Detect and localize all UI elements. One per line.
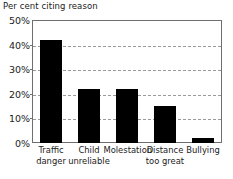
y-axis-tick-labels: 0%10%20%30%40%50% <box>0 20 30 143</box>
x-tick-label-line: unreliable <box>65 156 112 167</box>
gridline-40 <box>33 46 221 47</box>
y-tick-mark-40 <box>30 45 33 46</box>
y-tick-label-50: 50% <box>0 15 30 26</box>
y-tick-mark-10 <box>30 118 33 119</box>
y-tick-label-40: 40% <box>0 39 30 50</box>
x-tick-label-line: Bullying <box>179 145 226 156</box>
gridline-20 <box>33 95 221 96</box>
gridline-10 <box>33 119 221 120</box>
y-tick-label-30: 30% <box>0 64 30 75</box>
y-tick-mark-30 <box>30 69 33 70</box>
chart-screenshot: Per cent citing reason 0%10%20%30%40%50%… <box>0 0 233 179</box>
chart-title: Per cent citing reason <box>3 1 98 11</box>
plot-area <box>32 20 222 143</box>
x-tick-label: Bullying <box>179 145 226 156</box>
y-tick-label-10: 10% <box>0 113 30 124</box>
gridline-30 <box>33 70 221 71</box>
y-tick-mark-20 <box>30 94 33 95</box>
x-tick-label-line: too great <box>141 156 188 167</box>
y-tick-label-20: 20% <box>0 88 30 99</box>
y-tick-label-0: 0% <box>0 138 30 149</box>
x-axis-tick-labels: TrafficdangerChildunreliableMolestationD… <box>32 145 222 179</box>
